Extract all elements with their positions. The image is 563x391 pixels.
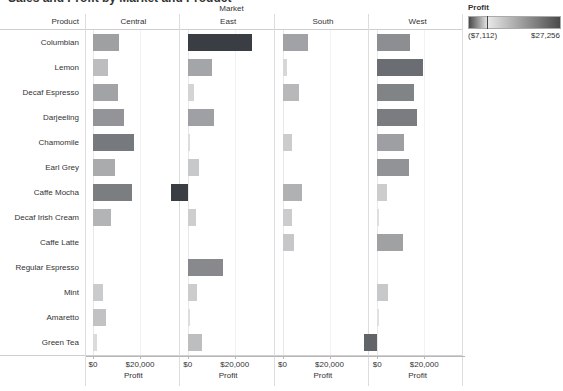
axis-title: Profit xyxy=(276,371,371,380)
gridline xyxy=(424,30,425,355)
bar[interactable] xyxy=(171,184,188,201)
product-row-label[interactable]: Amaretto xyxy=(0,309,84,326)
axis-tick-label: $20,000 xyxy=(220,360,249,369)
market-panel-south xyxy=(276,30,371,355)
plot-area: ColumbianLemonDecaf EspressoDarjeelingCh… xyxy=(0,30,463,355)
x-axis-south: $0$20,000Profit xyxy=(276,356,371,386)
bar[interactable] xyxy=(188,109,214,126)
axis-line xyxy=(370,356,465,357)
x-axis-east: $0$20,000Profit xyxy=(181,356,276,386)
axis-tick-label: $0 xyxy=(373,360,382,369)
bar[interactable] xyxy=(188,34,252,51)
market-column-header-south[interactable]: South xyxy=(276,14,371,29)
product-row-label[interactable]: Chamomile xyxy=(0,134,84,151)
product-row-label[interactable]: Decaf Espresso xyxy=(0,84,84,101)
market-panel-central xyxy=(86,30,181,355)
product-row-label[interactable]: Darjeeling xyxy=(0,109,84,126)
axis-tick xyxy=(330,356,331,359)
bar[interactable] xyxy=(377,309,379,326)
bar[interactable] xyxy=(188,209,196,226)
gridline xyxy=(330,30,331,355)
axis-tick-label: $0 xyxy=(89,360,98,369)
bar[interactable] xyxy=(93,284,103,301)
bar[interactable] xyxy=(188,259,223,276)
x-axis-central: $0$20,000Profit xyxy=(86,356,181,386)
product-row-label[interactable]: Earl Grey xyxy=(0,159,84,176)
axis-tick xyxy=(93,356,94,359)
bar[interactable] xyxy=(93,309,106,326)
column-header-row: ProductCentralEastSouthWest xyxy=(0,14,463,29)
bar[interactable] xyxy=(188,334,203,351)
bar[interactable] xyxy=(283,59,288,76)
axis-line xyxy=(86,356,181,357)
axis-tick xyxy=(188,356,189,359)
bar[interactable] xyxy=(377,34,410,51)
legend-max-label: $27,256 xyxy=(531,31,560,40)
axis-title: Profit xyxy=(86,371,181,380)
legend-zero-marker xyxy=(487,16,488,29)
axis-tick-label: $20,000 xyxy=(315,360,344,369)
axis-tick-label: $20,000 xyxy=(126,360,155,369)
bar[interactable] xyxy=(377,184,386,201)
legend-min-label: ($7,112) xyxy=(468,31,497,40)
bar[interactable] xyxy=(93,159,115,176)
product-row-label[interactable]: Mint xyxy=(0,284,84,301)
bar[interactable] xyxy=(283,209,292,226)
bar[interactable] xyxy=(93,334,97,351)
product-row-label[interactable]: Lemon xyxy=(0,59,84,76)
bar[interactable] xyxy=(377,84,414,101)
bar[interactable] xyxy=(377,234,403,251)
axis-tick xyxy=(235,356,236,359)
bar[interactable] xyxy=(93,209,111,226)
bar[interactable] xyxy=(93,59,108,76)
market-panel-east xyxy=(181,30,276,355)
bar[interactable] xyxy=(377,134,404,151)
axis-tick-label: $20,000 xyxy=(410,360,439,369)
product-row-label[interactable]: Columbian xyxy=(0,34,84,51)
bar[interactable] xyxy=(188,284,197,301)
product-row-label[interactable]: Green Tea xyxy=(0,334,84,351)
axis-title: Profit xyxy=(370,371,465,380)
bar[interactable] xyxy=(377,209,379,226)
market-column-header-central[interactable]: Central xyxy=(86,14,181,29)
bar[interactable] xyxy=(283,84,300,101)
bar[interactable] xyxy=(93,184,132,201)
product-row-label[interactable]: Regular Espresso xyxy=(0,259,84,276)
axis-tick xyxy=(140,356,141,359)
bar[interactable] xyxy=(377,109,417,126)
bar[interactable] xyxy=(188,309,191,326)
axis-tick-label: $0 xyxy=(183,360,192,369)
product-row-label[interactable]: Caffe Latte xyxy=(0,234,84,251)
axis-line xyxy=(181,356,276,357)
bar[interactable] xyxy=(188,84,194,101)
x-axis-west: $0$20,000Profit xyxy=(370,356,465,386)
gridline xyxy=(140,30,141,355)
bar[interactable] xyxy=(188,59,212,76)
bar[interactable] xyxy=(93,84,118,101)
product-row-label[interactable]: Decaf Irish Cream xyxy=(0,209,84,226)
bar[interactable] xyxy=(377,284,388,301)
profit-legend: Profit ($7,112) $27,256 xyxy=(463,0,563,48)
bar[interactable] xyxy=(364,334,377,351)
bar[interactable] xyxy=(93,134,134,151)
axis-tick-label: $0 xyxy=(278,360,287,369)
bar[interactable] xyxy=(283,184,303,201)
legend-title: Profit xyxy=(468,3,489,12)
product-column-header: Product xyxy=(0,14,84,29)
bar[interactable] xyxy=(188,159,199,176)
market-panel-west xyxy=(370,30,465,355)
market-column-header-east[interactable]: East xyxy=(181,14,276,29)
zero-baseline xyxy=(188,30,189,355)
product-row-label[interactable]: Caffe Mocha xyxy=(0,184,84,201)
bar[interactable] xyxy=(93,109,124,126)
bar[interactable] xyxy=(377,59,423,76)
bar[interactable] xyxy=(283,34,308,51)
axis-tick xyxy=(377,356,378,359)
bar[interactable] xyxy=(283,134,292,151)
market-column-header-west[interactable]: West xyxy=(370,14,465,29)
bar[interactable] xyxy=(93,34,119,51)
market-header-label: Market xyxy=(0,4,463,13)
bar[interactable] xyxy=(377,159,408,176)
bar[interactable] xyxy=(283,234,294,251)
bar[interactable] xyxy=(188,134,191,151)
